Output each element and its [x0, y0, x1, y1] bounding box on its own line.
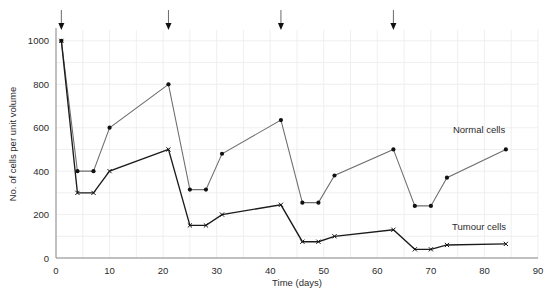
data-point-marker: [166, 82, 170, 86]
x-axis-title: Time (days): [272, 277, 322, 288]
x-tick-label: 50: [318, 265, 329, 276]
data-point-marker: [300, 201, 304, 205]
cell-population-chart: 010203040506070809002004006008001000Time…: [0, 0, 555, 290]
x-tick-label: 30: [211, 265, 222, 276]
x-tick-label: 0: [53, 265, 58, 276]
x-tick-label: 40: [265, 265, 276, 276]
data-point-marker: [316, 201, 320, 205]
data-point-marker: [107, 126, 111, 130]
treatment-arrow-2-head: [165, 23, 171, 30]
y-tick-label: 1000: [28, 35, 49, 46]
data-point-marker: [445, 176, 449, 180]
series-label-tumour-cells: Tumour cells: [452, 221, 506, 232]
y-tick-label: 600: [33, 122, 49, 133]
data-point-marker: [204, 188, 208, 192]
series-line-tumour-cells: [61, 41, 506, 249]
data-point-marker: [279, 118, 283, 122]
y-tick-label: 800: [33, 79, 49, 90]
series-label-normal-cells: Normal cells: [453, 124, 506, 135]
data-point-marker: [391, 147, 395, 151]
x-tick-label: 10: [104, 265, 115, 276]
data-point-marker: [91, 169, 95, 173]
data-point-marker: [429, 204, 433, 208]
data-point-marker: [332, 173, 336, 177]
x-tick-label: 60: [372, 265, 383, 276]
series-line-normal-cells: [61, 41, 506, 206]
y-axis-title: No. of cells per unit volume: [7, 87, 18, 202]
data-point-marker: [220, 152, 224, 156]
data-point-marker: [504, 147, 508, 151]
x-tick-label: 90: [533, 265, 544, 276]
x-tick-label: 80: [479, 265, 490, 276]
treatment-arrow-3-head: [278, 23, 284, 30]
data-point-marker: [413, 204, 417, 208]
chart-canvas: 010203040506070809002004006008001000Time…: [0, 0, 555, 290]
y-tick-label: 400: [33, 166, 49, 177]
x-tick-label: 70: [426, 265, 437, 276]
data-point-marker: [188, 188, 192, 192]
treatment-arrow-1-head: [58, 23, 64, 30]
x-tick-label: 20: [158, 265, 169, 276]
y-tick-label: 200: [33, 209, 49, 220]
treatment-arrow-4-head: [390, 23, 396, 30]
y-tick-label: 0: [44, 253, 49, 264]
